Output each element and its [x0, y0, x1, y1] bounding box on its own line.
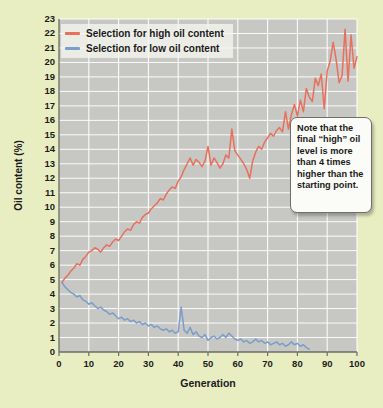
x-tick-90: 90 [314, 358, 340, 369]
legend-item-low: Selection for low oil content [65, 41, 229, 56]
y-tick-3: 3 [33, 303, 55, 314]
y-tick-1: 1 [33, 332, 55, 343]
y-tick-0: 0 [33, 346, 55, 357]
y-tick-12: 12 [33, 172, 55, 183]
y-tick-18: 18 [33, 85, 55, 96]
x-tick-30: 30 [135, 358, 161, 369]
y-tick-10: 10 [33, 201, 55, 212]
y-tick-15: 15 [33, 129, 55, 140]
x-axis-title: Generation [59, 377, 357, 389]
y-tick-20: 20 [33, 56, 55, 67]
x-tick-40: 40 [165, 358, 191, 369]
annotation-callout: Note that the final “high” oil level is … [290, 117, 372, 213]
x-tick-20: 20 [106, 358, 132, 369]
y-tick-16: 16 [33, 114, 55, 125]
y-tick-2: 2 [33, 317, 55, 328]
chart-figure: Oil content (%) Generation 0123456789101… [0, 0, 383, 408]
y-tick-9: 9 [33, 216, 55, 227]
y-axis-title: Oil content (%) [13, 131, 24, 221]
y-tick-23: 23 [33, 13, 55, 24]
x-tick-70: 70 [255, 358, 281, 369]
legend-swatch-high [65, 32, 80, 35]
legend-item-high: Selection for high oil content [65, 26, 229, 41]
y-tick-21: 21 [33, 42, 55, 53]
legend-label-high: Selection for high oil content [86, 28, 224, 39]
annotation-callout-text: Note that the final “high” oil level is … [297, 123, 365, 191]
y-tick-6: 6 [33, 259, 55, 270]
y-tick-8: 8 [33, 230, 55, 241]
y-tick-19: 19 [33, 71, 55, 82]
y-tick-22: 22 [33, 27, 55, 38]
x-tick-80: 80 [284, 358, 310, 369]
x-tick-0: 0 [46, 358, 72, 369]
x-tick-100: 100 [344, 358, 370, 369]
legend-label-low: Selection for low oil content [86, 43, 219, 54]
x-tick-50: 50 [195, 358, 221, 369]
y-tick-17: 17 [33, 100, 55, 111]
chart-legend: Selection for high oil content Selection… [61, 24, 233, 58]
legend-swatch-low [65, 47, 80, 50]
y-tick-13: 13 [33, 158, 55, 169]
y-tick-11: 11 [33, 187, 55, 198]
y-tick-14: 14 [33, 143, 55, 154]
y-tick-7: 7 [33, 245, 55, 256]
y-tick-5: 5 [33, 274, 55, 285]
x-tick-10: 10 [76, 358, 102, 369]
y-tick-4: 4 [33, 288, 55, 299]
x-tick-60: 60 [225, 358, 251, 369]
